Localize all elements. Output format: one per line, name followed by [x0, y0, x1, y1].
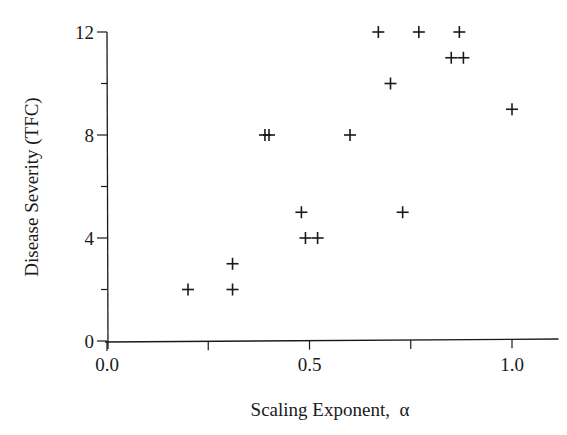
y-tick-label: 4: [85, 228, 95, 249]
plus-marker: [312, 232, 324, 244]
y-tick-label: 12: [75, 22, 94, 43]
x-axis-label: Scaling Exponent, α: [251, 399, 410, 420]
data-points: [182, 26, 518, 296]
scatter-plot: 04812 0.00.51.0 Scaling Exponent, α Dise…: [0, 0, 567, 435]
plus-marker: [372, 26, 384, 38]
plus-marker: [506, 103, 518, 115]
y-tick-label: 8: [85, 125, 95, 146]
plus-marker: [457, 52, 469, 64]
x-axis: 0.00.51.0: [95, 339, 558, 375]
plus-marker: [295, 206, 307, 218]
x-tick-label: 0.5: [298, 354, 322, 375]
y-axis-label: Disease Severity (TFC): [21, 97, 43, 276]
plus-marker: [344, 129, 356, 141]
plus-marker: [385, 78, 397, 90]
plus-marker: [227, 284, 239, 296]
plus-marker: [445, 52, 457, 64]
plus-marker: [397, 206, 409, 218]
plus-marker: [182, 284, 194, 296]
x-tick-label: 0.0: [95, 354, 119, 375]
y-tick-label: 0: [85, 331, 95, 352]
x-tick-label: 1.0: [500, 354, 524, 375]
plus-marker: [299, 232, 311, 244]
plus-marker: [227, 258, 239, 270]
plus-marker: [453, 26, 465, 38]
plus-marker: [413, 26, 425, 38]
y-axis: 04812: [75, 22, 108, 352]
